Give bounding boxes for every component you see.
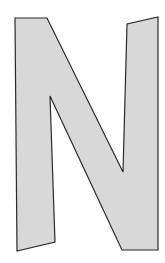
letter-n-shape: N	[0, 0, 165, 263]
letter-n-outline	[15, 17, 158, 251]
